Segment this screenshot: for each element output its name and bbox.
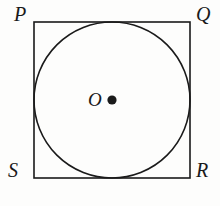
center-label-o: O xyxy=(88,90,102,109)
vertex-label-p: P xyxy=(14,4,26,24)
center-point-dot xyxy=(107,95,116,104)
vertex-label-s: S xyxy=(8,160,18,180)
geometry-figure: P Q S R O xyxy=(0,0,220,206)
vertex-label-r: R xyxy=(196,160,208,180)
vertex-label-q: Q xyxy=(196,4,210,24)
geometry-canvas xyxy=(0,0,220,206)
